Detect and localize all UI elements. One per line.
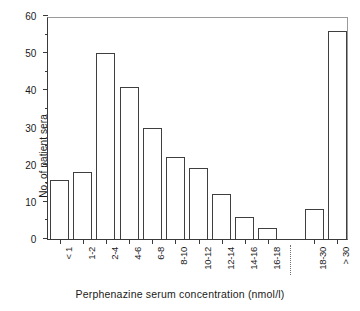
x-tick bbox=[268, 239, 269, 244]
y-tick-label-40: 40 bbox=[25, 85, 36, 96]
x-tick-label: > 30 bbox=[340, 247, 351, 265]
y-tick-60: 60 bbox=[43, 15, 48, 16]
x-tick bbox=[314, 239, 315, 244]
x-tick bbox=[199, 239, 200, 244]
x-tick bbox=[129, 239, 130, 244]
axis-break-marker bbox=[290, 245, 291, 275]
x-tick bbox=[152, 239, 153, 244]
bar bbox=[212, 194, 231, 239]
x-tick bbox=[222, 239, 223, 244]
bar bbox=[328, 31, 347, 239]
x-tick bbox=[175, 239, 176, 244]
bar bbox=[166, 157, 185, 239]
x-tick-label: 1-2 bbox=[86, 247, 97, 260]
y-tick-label-50: 50 bbox=[25, 48, 36, 59]
y-tick-label-0: 0 bbox=[31, 234, 36, 245]
bar bbox=[50, 180, 69, 239]
bar bbox=[96, 53, 115, 239]
bar bbox=[120, 87, 139, 239]
plot-area: 0102030405060 bbox=[47, 17, 348, 240]
x-tick bbox=[83, 239, 84, 244]
x-tick-label: 2-4 bbox=[109, 247, 120, 260]
y-tick-label-60: 60 bbox=[25, 11, 36, 22]
y-tick-label-20: 20 bbox=[25, 159, 36, 170]
histogram-figure: No. of patient sera 0102030405060 < 11-2… bbox=[0, 0, 360, 311]
x-tick-label: 8-10 bbox=[178, 247, 189, 265]
x-tick-label: 18-30 bbox=[317, 247, 328, 270]
x-axis-title: Perphenazine serum concentration (nmol/l… bbox=[0, 288, 360, 300]
bar bbox=[189, 168, 208, 239]
x-tick bbox=[337, 239, 338, 244]
bar bbox=[235, 217, 254, 239]
bar bbox=[143, 128, 162, 240]
x-tick-label: 16-18 bbox=[271, 247, 282, 270]
y-tick-label-10: 10 bbox=[25, 196, 36, 207]
x-tick bbox=[60, 239, 61, 244]
x-tick bbox=[245, 239, 246, 244]
bar bbox=[305, 209, 324, 239]
bar-series bbox=[48, 18, 347, 239]
x-tick-label: < 1 bbox=[63, 247, 74, 260]
x-tick-label: 12-14 bbox=[225, 247, 236, 270]
y-tick-label-30: 30 bbox=[25, 122, 36, 133]
x-tick bbox=[106, 239, 107, 244]
x-tick-label: 4-6 bbox=[132, 247, 143, 260]
x-tick-label: 6-8 bbox=[155, 247, 166, 260]
bar bbox=[73, 172, 92, 239]
bar bbox=[258, 228, 277, 239]
x-tick-label: 10-12 bbox=[202, 247, 213, 270]
x-tick-label: 14-16 bbox=[248, 247, 259, 270]
